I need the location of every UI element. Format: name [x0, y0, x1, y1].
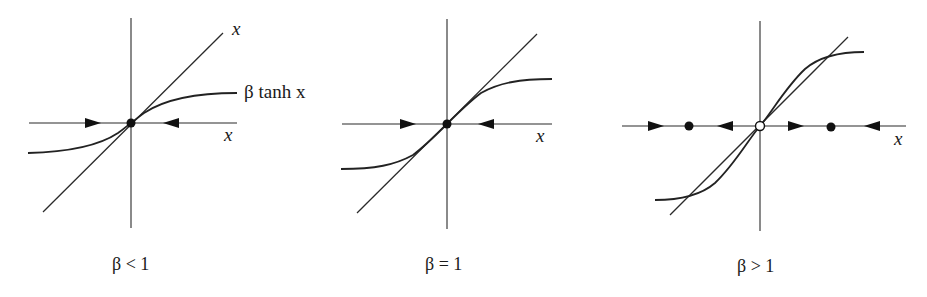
arrow-right-icon [400, 119, 416, 129]
arrow-left-icon [163, 118, 179, 128]
stable-fixed-point [685, 122, 694, 131]
arrow-left-icon [864, 121, 880, 131]
bifurcation-figure: x β tanh x x β < 1 x β = 1 x β > 1 [0, 0, 927, 297]
arrow-right-icon [788, 121, 804, 131]
panel-beta-less-than-one: x β tanh x x β < 1 [28, 18, 306, 274]
line-label-x: x [231, 18, 241, 39]
arrow-left-icon [717, 121, 733, 131]
axis-label-x: x [893, 128, 903, 149]
axis-label-x: x [535, 125, 545, 146]
unstable-fixed-point [756, 122, 765, 131]
panel-beta-greater-than-one: x β > 1 [622, 21, 906, 276]
caption-beta-gt-1: β > 1 [737, 256, 774, 276]
stable-fixed-point [443, 120, 452, 129]
arrow-left-icon [478, 119, 494, 129]
panel-beta-equals-one: x β = 1 [341, 19, 552, 274]
stable-fixed-point [127, 119, 136, 128]
stable-fixed-point [827, 123, 836, 132]
fixed-points [127, 119, 136, 128]
arrow-right-icon [85, 118, 101, 128]
axis-label-x: x [223, 124, 233, 145]
fixed-points [443, 120, 452, 129]
caption-beta-eq-1: β = 1 [425, 254, 462, 274]
curve-label-beta-tanh-x: β tanh x [244, 81, 306, 102]
arrow-right-icon [648, 121, 664, 131]
caption-beta-lt-1: β < 1 [112, 254, 149, 274]
